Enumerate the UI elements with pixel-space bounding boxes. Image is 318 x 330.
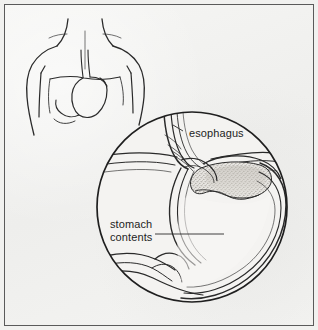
- torso-overview-panel: [27, 19, 145, 135]
- label-esophagus: esophagus: [189, 127, 244, 140]
- right-inner-arm-edge: [131, 73, 133, 113]
- magnified-cross-section-panel: [93, 112, 287, 302]
- right-arm-inner-tip: [127, 66, 131, 73]
- left-arm-inner-tip: [41, 66, 45, 73]
- torso-stomach-fundus-curve: [90, 77, 107, 86]
- label-stomach-contents-line2: contents: [110, 231, 152, 244]
- torso-stomach-outline: [72, 78, 107, 117]
- illustration-root: esophagus stomach contents: [0, 0, 318, 330]
- left-shoulder-arm-contour: [27, 46, 57, 135]
- torso-esophagus-left: [81, 50, 83, 77]
- neck-right-contour: [102, 19, 113, 46]
- label-stomach-contents: stomach contents: [110, 218, 152, 244]
- figure-frame: esophagus stomach contents: [4, 4, 314, 326]
- right-shoulder-arm-contour: [113, 46, 144, 125]
- neck-left-contour: [57, 19, 68, 46]
- torso-duodenum-lower: [54, 119, 75, 123]
- left-inner-arm-edge: [39, 73, 41, 117]
- torso-esophagus-right: [88, 50, 90, 77]
- abdomen-right-contour: [120, 77, 123, 105]
- label-stomach-contents-line1: stomach: [110, 218, 152, 231]
- abdomen-left-contour: [49, 79, 51, 113]
- diaphragm-line: [50, 77, 120, 80]
- torso-duodenum: [56, 100, 79, 117]
- illustration-artwork: [5, 5, 315, 327]
